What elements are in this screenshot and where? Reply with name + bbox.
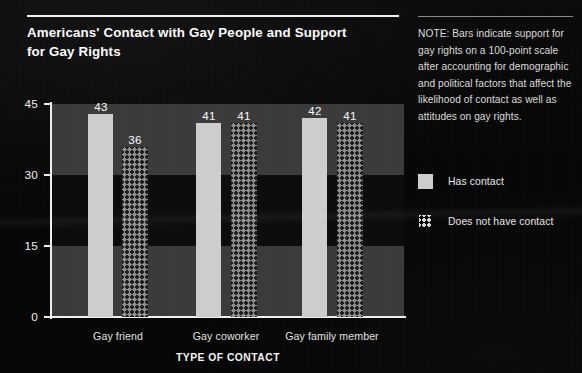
side-panel: NOTE: Bars indicate support for gay righ… — [418, 0, 582, 373]
bar-gay-coworker-has-contact[interactable] — [196, 123, 221, 317]
y-axis-label-45: 45 — [8, 97, 38, 111]
y-axis-label-0: 0 — [8, 310, 38, 324]
bar-value-gay-coworker-no-contact: 41 — [225, 109, 263, 122]
legend-item-does-not-have-contact[interactable]: Does not have contact — [418, 212, 582, 252]
page-title: Americans' Contact with Gay People and S… — [27, 24, 357, 62]
legend-item-has-contact[interactable]: Has contact — [418, 172, 582, 212]
y-axis-line — [50, 102, 52, 319]
note-rule — [418, 16, 573, 17]
chart-note: NOTE: Bars indicate support for gay righ… — [418, 26, 576, 125]
x-axis-title: TYPE OF CONTACT — [50, 352, 406, 363]
x-axis-category-gay-coworker: Gay coworker — [166, 330, 286, 342]
bar-value-gay-family-member-has-contact: 42 — [296, 104, 334, 117]
y-axis-tick-0 — [44, 316, 51, 318]
legend-label-has-contact: Has contact — [448, 176, 504, 187]
x-axis-category-gay-friend: Gay friend — [58, 330, 178, 342]
y-axis-tick-45 — [44, 103, 51, 105]
bar-value-gay-friend-no-contact: 36 — [116, 133, 154, 146]
bar-value-gay-family-member-no-contact: 41 — [331, 109, 369, 122]
y-axis-tick-15 — [44, 245, 51, 247]
legend-label-does-not-have-contact: Does not have contact — [448, 216, 554, 227]
solid-square-swatch-icon — [418, 174, 433, 189]
y-axis-tick-30 — [44, 174, 51, 176]
legend: Has contact Does not have contact — [418, 172, 582, 252]
bar-gay-family-member-no-contact[interactable] — [337, 123, 363, 317]
crosshatch-square-swatch-icon — [419, 215, 432, 228]
bar-gay-friend-has-contact[interactable] — [88, 114, 113, 317]
chart-panel: Americans' Contact with Gay People and S… — [0, 0, 408, 373]
y-axis-label-30: 30 — [8, 168, 38, 182]
bar-gay-friend-no-contact[interactable] — [122, 147, 148, 317]
y-axis-label-15: 15 — [8, 239, 38, 253]
bar-gay-family-member-has-contact[interactable] — [302, 118, 327, 317]
bar-value-gay-friend-has-contact: 43 — [82, 100, 120, 113]
bar-value-gay-coworker-has-contact: 41 — [190, 109, 228, 122]
title-rule — [27, 15, 399, 17]
x-axis-category-gay-family-member: Gay family member — [272, 330, 392, 342]
bar-gay-coworker-no-contact[interactable] — [231, 123, 257, 317]
